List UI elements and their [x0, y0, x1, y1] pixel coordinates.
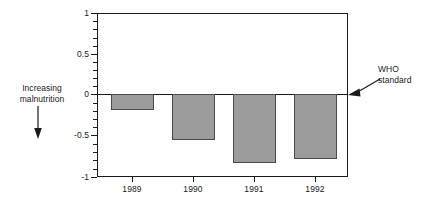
- bar-1991: [233, 94, 276, 163]
- x-tick-label: 1992: [290, 185, 340, 194]
- y-tick-minor: [93, 70, 97, 71]
- x-tick-label: 1989: [107, 185, 157, 194]
- y-tick-label: -0.5: [61, 131, 89, 140]
- y-tick-minor: [93, 38, 97, 39]
- y-tick-minor: [93, 127, 97, 128]
- y-tick-minor: [93, 103, 97, 104]
- y-tick-major: [91, 135, 97, 136]
- annotation-line-2: malnutrition: [6, 94, 78, 105]
- y-tick-minor: [93, 160, 97, 161]
- y-tick-label: -1: [61, 173, 89, 182]
- y-tick-major: [91, 54, 97, 55]
- y-tick-minor: [93, 169, 97, 170]
- y-tick-minor: [93, 144, 97, 145]
- diagonal-arrow-icon: [347, 78, 381, 100]
- x-tick-label: 1991: [229, 185, 279, 194]
- bar-1989: [111, 94, 154, 110]
- bar-1992: [294, 94, 337, 159]
- y-tick-label: 0.5: [61, 50, 89, 59]
- x-tick: [132, 177, 133, 182]
- y-tick-major: [91, 94, 97, 95]
- y-tick-minor: [93, 119, 97, 120]
- annotation-line-1: WHO: [378, 64, 432, 75]
- y-tick-major: [91, 13, 97, 14]
- y-tick-minor: [93, 29, 97, 30]
- x-tick: [193, 177, 194, 182]
- bar-1990: [172, 94, 215, 140]
- annotation-who-standard: WHO standard: [378, 64, 432, 85]
- y-tick-minor: [93, 46, 97, 47]
- y-tick-minor: [93, 62, 97, 63]
- y-tick-minor: [93, 21, 97, 22]
- y-tick-minor: [93, 86, 97, 87]
- y-tick-minor: [93, 111, 97, 112]
- x-tick: [315, 177, 316, 182]
- annotation-line-1: Increasing: [6, 83, 78, 94]
- annotation-line-2: standard: [378, 75, 432, 86]
- down-arrow-icon: [30, 106, 46, 140]
- x-tick: [254, 177, 255, 182]
- y-tick-major: [91, 177, 97, 178]
- y-tick-label: 1: [61, 9, 89, 18]
- chart-figure: 1 0.5 0 -0.5 -1 1989 1990 1991 1992: [0, 0, 433, 209]
- annotation-increasing-malnutrition: Increasing malnutrition: [6, 83, 78, 104]
- y-tick-minor: [93, 78, 97, 79]
- x-tick-label: 1990: [168, 185, 218, 194]
- y-tick-minor: [93, 152, 97, 153]
